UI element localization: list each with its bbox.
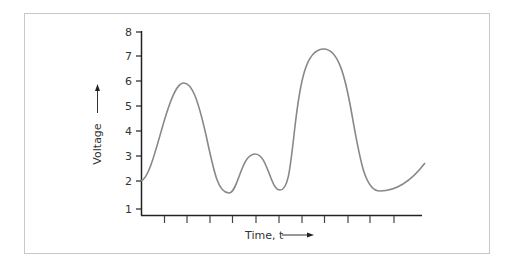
y-axis-arrowhead-icon <box>95 84 100 91</box>
y-tick-label-1: 1 <box>125 203 132 216</box>
y-axis-title-group: Voltage <box>91 84 104 165</box>
y-tick-labels: 1 2 3 4 5 6 7 8 <box>125 26 132 216</box>
y-tick-label-5: 5 <box>125 100 132 113</box>
y-ticks <box>136 32 141 209</box>
voltage-chart: 1 2 3 4 5 6 7 8 Voltage Time, t <box>0 0 518 270</box>
y-axis-title: Voltage <box>91 123 104 164</box>
x-axis-title: Time, t <box>244 229 284 242</box>
voltage-curve <box>141 49 425 193</box>
y-tick-label-3: 3 <box>125 150 132 163</box>
y-tick-label-8: 8 <box>125 26 132 39</box>
y-tick-label-4: 4 <box>125 125 132 138</box>
x-axis-arrowhead-icon <box>307 233 314 238</box>
x-ticks <box>165 216 395 223</box>
y-tick-label-7: 7 <box>125 50 132 63</box>
y-tick-label-6: 6 <box>125 75 132 88</box>
y-tick-label-2: 2 <box>125 175 132 188</box>
x-axis-title-group: Time, t <box>244 229 314 242</box>
